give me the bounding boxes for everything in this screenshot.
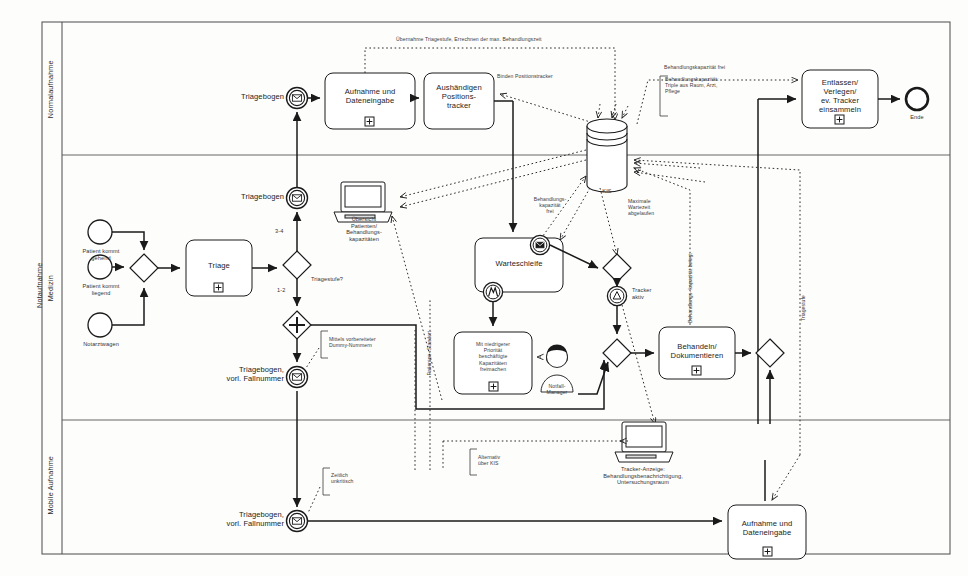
annotation-bracket-dummy: [321, 331, 328, 358]
event-triagebogen-vorl-mobile: [287, 511, 308, 532]
gateway-parallel-split: [283, 311, 311, 339]
task-behandeln-dokumentieren-hit[interactable]: [659, 327, 735, 379]
event-label-start-liegend: Patient kommt liegend: [62, 283, 140, 296]
assoc-zeitlich-unkritisch: [308, 487, 320, 513]
annotation-maximale-wartezeit: Maximale Wartezeit abgelaufen: [628, 198, 688, 217]
task-kapazitaeten-freimachen-hit[interactable]: [454, 332, 532, 394]
event-label-ende: Ende: [892, 114, 942, 121]
assoc-binden-positionstracker: [500, 94, 600, 125]
gateway-triagestufe: [283, 251, 311, 279]
annotation-behandlungskapazitaet-frei-mid: Behandlungs- kapazität frei: [519, 196, 581, 215]
annotation-patienten-standort: Patienten- Standort: [426, 318, 432, 388]
task-entlassen-verlegen-hit[interactable]: [802, 70, 878, 128]
event-triagebogen-top: [287, 88, 308, 109]
datastore-label-uebersicht: Übersicht Patienten/ Behandlungs- kapazi…: [329, 216, 399, 243]
event-triagebogen-vorl: [287, 367, 308, 388]
assoc-maximale-wartezeit: [600, 188, 617, 255]
datastore-label-tracker-anzeige: Tracker-Anzeige: Behandlungsbenachrichti…: [578, 466, 708, 486]
annotation-binden-positionstracker: Binden Positionstracker: [497, 73, 607, 79]
event-ende: [906, 88, 928, 110]
event-label-triagebogen-vorl-mobile: Triagebogen, vorl. Fallnummer: [190, 511, 284, 529]
actor-label-notfall-manager: Notfall- Manager: [531, 383, 583, 395]
event-label-tracker-aktiv: Tracker aktiv: [632, 287, 678, 300]
annotation-bracket-zeitlich: [323, 468, 330, 495]
pool-label: Notaufnahme: [36, 215, 44, 355]
gateway-label-triagestufe: Triagestufe?: [311, 276, 381, 283]
annotation-dummy-nummern: Mittels vorbereiteter Dummy-Nummern: [329, 336, 417, 348]
annotation-alternativ-ueber-kis: Alternativ über KIS: [478, 454, 538, 466]
event-start-notarztwagen: [88, 313, 112, 337]
event-label-triagebogen-vorl: Triagebogen, vorl. Fallnummer: [192, 366, 284, 384]
datastore-kis-hit[interactable]: [587, 119, 627, 192]
event-label-triagebogen-top: Triagebogen: [186, 93, 284, 102]
event-start-gehend: [88, 220, 112, 244]
icon-monitor-tracker-anzeige: [615, 422, 673, 462]
gateway-merge-after-behandeln: [756, 339, 784, 367]
event-triagebogen-mid: [287, 188, 308, 209]
gateway-branch-label-12: 1-2: [277, 287, 307, 294]
annotation-zeitlich-unkritisch: Zeitlich unkritisch: [331, 472, 385, 484]
event-label-start-gehend: Patient kommt gehend: [62, 248, 140, 261]
assoc-into-kis-right: [634, 163, 705, 182]
lane-label-medizin: Medizin: [47, 248, 55, 328]
assoc-uebersicht-lower: [392, 216, 442, 400]
lane-label-normalaufnahme: Normalaufnahme: [47, 39, 55, 139]
task-aushaendigen-positionstracker-hit[interactable]: [424, 73, 494, 129]
assoc-into-kis-top: [598, 104, 628, 118]
annotation-behandlungskapazitaet-triple: Behandlungskapazität: Triple aus Raum, A…: [665, 76, 755, 95]
gateway-merge-behandeln: [603, 254, 631, 282]
event-tracker-aktiv: [607, 286, 626, 305]
event-label-start-notarztwagen: Notarztwagen: [62, 341, 140, 348]
annotation-behandlungskapazitaet-belegt: Behandlungs- kapazität belegt: [687, 248, 693, 328]
task-aufnahme-dateneingabe-hit[interactable]: [325, 73, 415, 129]
annotation-behandlungskapazitaet-frei-top: Behandlungskapazität frei: [664, 64, 794, 70]
lane-label-mobile-aufnahme: Mobile Aufnahme: [47, 429, 55, 541]
event-label-triagebogen-mid: Triagebogen: [186, 193, 284, 202]
assoc-dummy-nummern: [306, 348, 319, 368]
gateway-branch-label-34: 3-4: [275, 228, 305, 235]
annotation-bracket-alternativ: [470, 449, 477, 475]
assoc-behandlungskapazitaet-belegt: [634, 168, 690, 350]
task-warteschleife-hit[interactable]: [475, 238, 563, 292]
bpmn-diagram-canvas: Notaufnahme Normalaufnahme Medizin Mobil…: [0, 0, 968, 576]
task-triage-hit[interactable]: [186, 240, 252, 296]
task-aufnahme-dateneingabe-mobil-hit[interactable]: [728, 505, 806, 559]
annotation-triagestufe-vertical: Triagestufe: [800, 273, 806, 343]
assoc-tracker-to-monitor: [622, 305, 655, 424]
annotation-uebernahme-triagestufe: Übernahme Triagestufe, Errechnen der max…: [396, 36, 646, 42]
